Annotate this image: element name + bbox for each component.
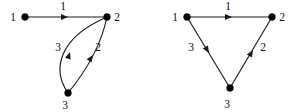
right-graph: 1 3 2 1 2 3 bbox=[172, 0, 285, 110]
node-label-1-right: 1 bbox=[172, 11, 178, 23]
figure-root: 1 3 2 1 2 3 bbox=[0, 0, 297, 112]
edge-1-to-2-right: 1 bbox=[187, 0, 272, 20]
node-2-left bbox=[104, 14, 111, 21]
edge-3-to-2-right: 2 bbox=[230, 17, 272, 88]
edge-curve-3-to-2 bbox=[60, 17, 107, 93]
arrowhead-1-to-2 bbox=[61, 14, 68, 20]
edge-label-1-left: 1 bbox=[60, 0, 66, 12]
node-label-3-left: 3 bbox=[62, 99, 68, 111]
node-label-3-right: 3 bbox=[224, 98, 230, 110]
edge-3-to-2-curved: 3 bbox=[55, 17, 107, 93]
edge-label-3-right: 3 bbox=[188, 41, 194, 53]
edge-label-2-right: 2 bbox=[260, 41, 266, 53]
node-label-1-left: 1 bbox=[10, 11, 16, 23]
arrowhead-2-3-to-2 bbox=[87, 53, 96, 62]
edge-3-to-2-curved-alt: 2 bbox=[68, 17, 107, 93]
node-3-left bbox=[65, 90, 72, 97]
arrowhead-3-to-2-right bbox=[247, 48, 256, 57]
node-label-2-right: 2 bbox=[279, 11, 285, 23]
edge-1-to-3-right: 3 bbox=[187, 17, 230, 88]
edge-label-2-left: 2 bbox=[95, 41, 101, 53]
left-graph: 1 3 2 1 2 3 bbox=[10, 0, 120, 111]
arrowhead-3-to-2 bbox=[65, 51, 73, 60]
edge-1-to-2: 1 bbox=[25, 0, 107, 20]
node-2-right bbox=[269, 14, 276, 21]
node-1-right bbox=[184, 14, 191, 21]
arrowhead-1-to-3-right bbox=[203, 45, 212, 54]
node-1-left bbox=[22, 14, 29, 21]
arrowhead-1-to-2-right bbox=[225, 14, 232, 20]
node-label-2-left: 2 bbox=[114, 11, 120, 23]
node-3-right bbox=[227, 85, 234, 92]
graph-pair-canvas: 1 3 2 1 2 3 bbox=[0, 0, 297, 112]
edge-label-1-right: 1 bbox=[225, 0, 231, 12]
edge-label-3-left: 3 bbox=[55, 41, 61, 53]
edge-curve-2-3-to-2 bbox=[68, 17, 107, 93]
